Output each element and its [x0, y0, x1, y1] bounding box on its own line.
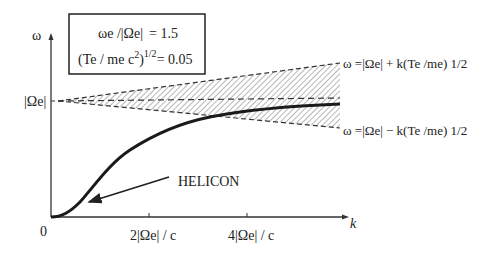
helicon-arrow	[89, 177, 169, 202]
lower-bound-label: ω =|Ωe| − k(Te /me) 1/2	[343, 123, 467, 138]
x-tick-label-2: 2|Ωe| / c	[130, 228, 176, 243]
y-axis-arrow-icon	[49, 33, 54, 40]
x-axis-label: k	[350, 216, 357, 231]
helicon-label: HELICON	[178, 174, 239, 189]
origin-label: 0	[40, 224, 47, 239]
x-axis-arrow-icon	[342, 215, 349, 220]
dispersion-diagram: ω |Ωe| 0 k 2|Ωe| / c 4|Ωe| / c ωe /|Ωe|=…	[0, 0, 492, 256]
y-axis-label: ω	[32, 28, 41, 43]
omega-ce-label: |Ωe|	[24, 94, 46, 109]
param-line-1: ωe /|Ωe|= 1.5	[98, 26, 178, 41]
x-tick-label-4: 4|Ωe| / c	[228, 228, 274, 243]
upper-bound-label: ω =|Ωe| + k(Te /me) 1/2	[343, 56, 467, 71]
